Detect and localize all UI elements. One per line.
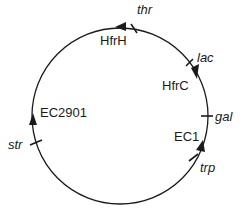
hfr-strain-markers: HfrHHfrCEC1EC2901 xyxy=(29,22,205,152)
gene-label-str: str xyxy=(8,137,23,152)
strain-label-EC2901: EC2901 xyxy=(40,105,87,120)
chromosome-map: thrlacgaltrpstr HfrHHfrCEC1EC2901 xyxy=(0,0,246,214)
origin-arrow-icon xyxy=(29,113,37,125)
gene-label-gal: gal xyxy=(215,109,233,124)
strain-label-EC1: EC1 xyxy=(174,129,199,144)
gene-label-trp: trp xyxy=(200,160,215,175)
strain-label-HfrC: HfrC xyxy=(162,78,189,93)
gene-label-thr: thr xyxy=(137,2,153,17)
strain-label-HfrH: HfrH xyxy=(100,33,127,48)
gene-label-lac: lac xyxy=(197,50,214,65)
origin-arrow-icon xyxy=(115,22,126,31)
